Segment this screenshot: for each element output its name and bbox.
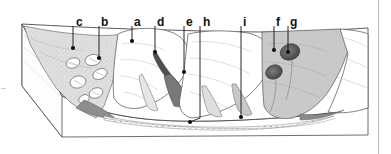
central-ridges	[113, 28, 270, 118]
leader-dot-f	[272, 48, 276, 52]
leader-dot-h	[188, 120, 192, 124]
label-d: d	[157, 16, 164, 28]
leader-dot-g	[286, 50, 290, 54]
leader-dot-a	[130, 39, 134, 43]
block-diagram-figure: cbadehifg	[0, 0, 391, 154]
leader-dot-i	[239, 115, 243, 119]
right-shaded-slope	[262, 29, 368, 120]
label-a: a	[134, 16, 141, 28]
label-e: e	[186, 16, 193, 28]
label-i: i	[243, 16, 246, 28]
leader-dot-e	[182, 70, 186, 74]
leader-dot-b	[97, 56, 101, 60]
label-f: f	[276, 16, 280, 28]
label-b: b	[101, 16, 108, 28]
label-c: c	[76, 16, 83, 28]
leader-dot-d	[153, 50, 157, 54]
leader-dot-c	[71, 46, 75, 50]
label-h: h	[203, 16, 210, 28]
label-g: g	[290, 16, 297, 28]
block-diagram-drawing	[0, 0, 391, 154]
